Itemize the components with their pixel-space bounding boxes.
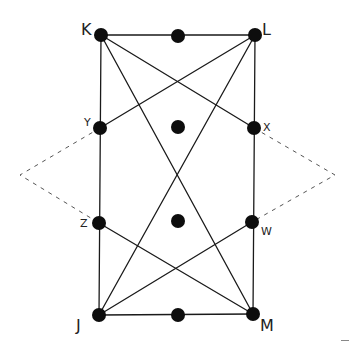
vertex-j bbox=[92, 308, 106, 322]
edge-l-j bbox=[99, 35, 255, 315]
vertex-w bbox=[245, 215, 259, 229]
vertex-c1 bbox=[171, 120, 185, 134]
left-dashed-wedge bbox=[20, 128, 100, 223]
vertex-y bbox=[93, 121, 107, 135]
graph-edges bbox=[99, 35, 255, 315]
vertex-label-y: Y bbox=[84, 117, 91, 128]
graph-diagram bbox=[0, 0, 353, 346]
vertex-l bbox=[248, 28, 262, 42]
vertex-label-m: M bbox=[260, 318, 274, 334]
right-dashed-wedge bbox=[252, 128, 335, 222]
vertex-label-x: X bbox=[263, 122, 271, 133]
vertex-t bbox=[171, 29, 185, 43]
vertex-label-l: L bbox=[262, 22, 271, 38]
vertex-x bbox=[247, 121, 261, 135]
vertex-z bbox=[92, 216, 106, 230]
edge-k-j bbox=[99, 35, 101, 315]
vertex-m bbox=[246, 307, 260, 321]
vertex-label-w: W bbox=[261, 226, 272, 237]
vertex-label-j: J bbox=[76, 318, 81, 334]
corner-mark bbox=[341, 340, 349, 341]
vertex-label-k: K bbox=[81, 22, 92, 38]
vertex-k bbox=[94, 28, 108, 42]
vertex-label-z: Z bbox=[80, 218, 88, 229]
vertex-b bbox=[171, 308, 185, 322]
edge-l-m bbox=[253, 35, 255, 314]
vertex-c2 bbox=[171, 214, 185, 228]
